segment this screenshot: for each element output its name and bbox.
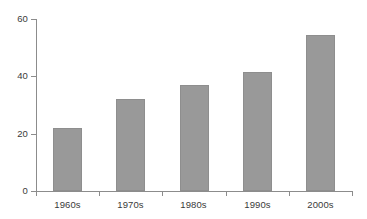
x-tick-separator [162,191,163,196]
y-tick-label-60: 60 [0,14,28,24]
y-tick-20 [31,134,36,135]
x-tick-separator [99,191,100,196]
bar-1960s [53,128,82,191]
bar-1990s [243,72,272,191]
x-tick-label-1960s: 1960s [36,199,99,210]
x-tick-label-1980s: 1980s [162,199,225,210]
y-axis-line [36,19,37,192]
x-axis-line [36,191,352,192]
bar-chart: 0 20 40 60 1960s 1970s 1980s 1990s 2000s [0,0,367,219]
x-tick-separator [36,191,37,196]
y-tick-60 [31,19,36,20]
x-tick-label-1990s: 1990s [226,199,289,210]
bar-1980s [180,85,209,191]
x-tick-label-2000s: 2000s [289,199,352,210]
x-tick-separator [226,191,227,196]
bar-1970s [116,99,145,191]
x-tick-separator [289,191,290,196]
bar-2000s [306,35,335,191]
y-tick-label-40: 40 [0,71,28,81]
x-tick-label-1970s: 1970s [99,199,162,210]
y-tick-40 [31,76,36,77]
y-tick-label-20: 20 [0,129,28,139]
y-tick-label-0: 0 [0,186,28,196]
x-tick-separator [352,191,353,196]
